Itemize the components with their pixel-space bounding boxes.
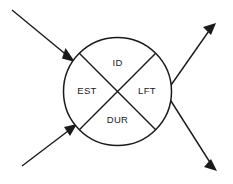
outgoing-arrow-top-right-head	[203, 23, 216, 35]
quadrant-label-lft: LFT	[138, 85, 156, 96]
quadrant-label-est: EST	[77, 85, 96, 96]
activity-node-diagram: ID EST LFT DUR	[0, 0, 233, 184]
quadrant-label-dur: DUR	[107, 114, 128, 125]
incoming-arrow-bottom-left-shaft	[22, 128, 72, 166]
outgoing-arrow-bottom-right-head	[204, 159, 217, 171]
node-diagram-canvas: ID EST LFT DUR	[0, 0, 233, 184]
incoming-arrow-top-left-shaft	[12, 10, 69, 57]
incoming-arrow-bottom-left	[22, 124, 77, 166]
quadrant-label-id: ID	[112, 57, 122, 68]
incoming-arrow-top-left	[12, 10, 75, 62]
